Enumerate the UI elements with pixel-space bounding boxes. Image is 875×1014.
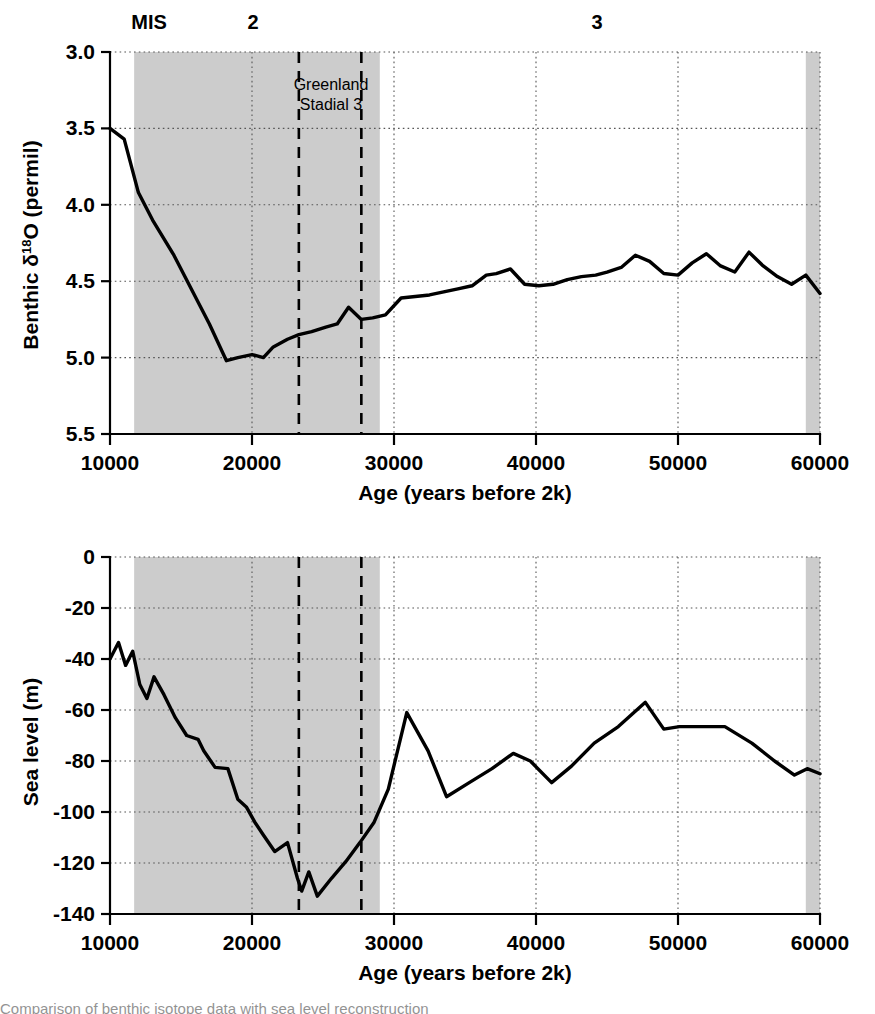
- x-tick-label: 40000: [507, 451, 565, 474]
- y-tick-label: -80: [65, 749, 95, 772]
- y-tick-label: 4.5: [66, 269, 96, 292]
- y-tick-label: 3.0: [66, 40, 95, 63]
- svg-text:Benthic δ18O (permil): Benthic δ18O (permil): [19, 140, 43, 349]
- mis-stage-3-label: 3: [591, 11, 602, 33]
- greenland-stadial-annotation-line1: Greenland: [294, 76, 369, 93]
- isotope-superscript: 18: [19, 240, 34, 254]
- x-tick-labels-top: 100002000030000400005000060000: [81, 451, 849, 474]
- shaded-bands-bottom: [134, 557, 820, 914]
- x-tick-label: 30000: [365, 931, 423, 954]
- mis4-edge-shaded-band-bottom: [806, 557, 820, 914]
- y-tick-label: 0: [83, 545, 95, 568]
- x-tick-label: 20000: [223, 451, 281, 474]
- x-tick-labels-bottom: 100002000030000400005000060000: [81, 931, 849, 954]
- x-tick-label: 10000: [81, 931, 139, 954]
- y-tick-labels-bottom: 0-20-40-60-80-100-120-140: [53, 545, 95, 925]
- y-tick-labels-top: 3.03.54.04.55.05.5: [66, 40, 96, 445]
- x-tick-label: 50000: [649, 931, 707, 954]
- two-panel-line-chart: 3.03.54.04.55.05.5 100002000030000400005…: [0, 0, 875, 1014]
- panel-benthic-d18o: 3.03.54.04.55.05.5 100002000030000400005…: [19, 11, 850, 504]
- mis-stage-2-label: 2: [247, 11, 258, 33]
- y-axis-title-bottom: Sea level (m): [19, 678, 42, 806]
- y-tick-label: 5.5: [66, 422, 96, 445]
- y-axis-title-suffix: (permil): [19, 140, 42, 223]
- panel-sea-level: 0-20-40-60-80-100-120-140 10000200003000…: [19, 545, 849, 984]
- y-axis-title-top: Benthic δ18O (permil): [19, 140, 43, 349]
- mis-label: MIS: [131, 11, 167, 33]
- mis2-shaded-band-bottom: [134, 557, 380, 914]
- x-tick-label: 20000: [223, 931, 281, 954]
- x-tick-label: 50000: [649, 451, 707, 474]
- figure-container: 3.03.54.04.55.05.5 100002000030000400005…: [0, 0, 875, 1014]
- y-tick-label: -140: [53, 902, 95, 925]
- x-tick-label: 40000: [507, 931, 565, 954]
- y-tick-label: -100: [53, 800, 95, 823]
- x-axis-title-bottom: Age (years before 2k): [358, 961, 572, 984]
- y-tick-label: 3.5: [66, 116, 96, 139]
- x-tick-label: 10000: [81, 451, 139, 474]
- delta-symbol: δ: [19, 254, 42, 267]
- y-tick-label: -120: [53, 851, 95, 874]
- oxygen-symbol: O: [19, 223, 42, 239]
- y-tick-label: -20: [65, 596, 95, 619]
- x-tick-label: 60000: [791, 931, 849, 954]
- y-tick-label: 5.0: [66, 346, 95, 369]
- greenland-stadial-annotation-line2: Stadial 3: [300, 96, 362, 113]
- x-tick-label: 60000: [791, 451, 849, 474]
- shaded-bands-top: [134, 52, 820, 434]
- figure-caption-partial: Comparison of benthic isotope data with …: [0, 1000, 875, 1014]
- x-axis-title-top: Age (years before 2k): [358, 481, 572, 504]
- y-tick-label: -60: [65, 698, 95, 721]
- y-tick-label: 4.0: [66, 193, 95, 216]
- mis4-edge-shaded-band: [806, 52, 820, 434]
- y-tick-label: -40: [65, 647, 95, 670]
- y-axis-title-prefix: Benthic: [19, 267, 42, 350]
- x-tick-label: 30000: [365, 451, 423, 474]
